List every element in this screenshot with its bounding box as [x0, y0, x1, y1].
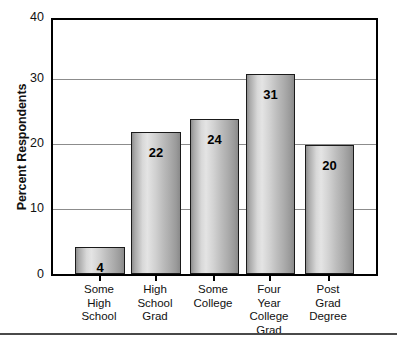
bar-value-label: 22: [132, 145, 180, 160]
bottom-divider-rule: [0, 333, 397, 335]
bar-high-school-grad: 22: [131, 132, 181, 274]
x-tick-3: [269, 276, 271, 281]
bar-value-label: 20: [306, 158, 353, 173]
bar-value-label: 4: [76, 260, 124, 275]
bar-post-grad-degree: 20: [305, 145, 354, 274]
y-tick-label-30: 30: [4, 72, 44, 85]
x-tick-4: [328, 276, 330, 281]
y-tick-label-40: 40: [4, 11, 44, 24]
y-tick-label-10: 10: [4, 202, 44, 215]
gridline-30: [53, 79, 376, 80]
bar-value-label: 24: [191, 132, 238, 147]
bar-value-label: 31: [247, 87, 294, 102]
plot-area: 4 22 24 31 20: [51, 18, 378, 276]
bar-four-year-college-grad: 31: [246, 74, 295, 274]
bar-chart-figure: Percent Respondents 40 30 20 10 0 4 22 2…: [0, 0, 397, 347]
bar-some-high-school: 4: [75, 247, 125, 274]
y-tick-label-20: 20: [4, 137, 44, 150]
x-tick-1: [155, 276, 157, 281]
x-tick-0: [99, 276, 101, 281]
y-tick-label-0: 0: [4, 268, 44, 281]
bar-some-college: 24: [190, 119, 239, 274]
x-tick-2: [213, 276, 215, 281]
x-category-label-post-grad-degree: Post Grad Degree: [288, 283, 368, 324]
